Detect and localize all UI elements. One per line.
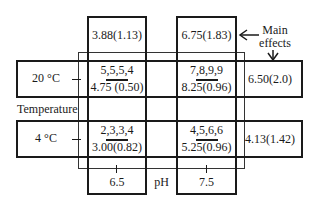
arrow-left-icon [0,0,318,205]
